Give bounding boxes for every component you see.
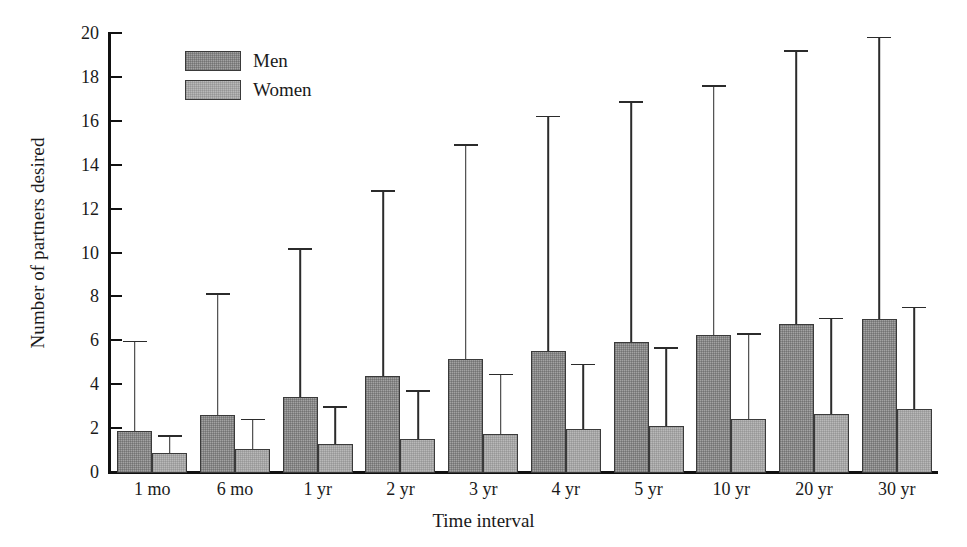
error-bar-line bbox=[382, 192, 384, 376]
x-tick-label: 30 yr bbox=[855, 479, 938, 500]
bar-women[interactable] bbox=[400, 439, 435, 473]
error-bar-cap bbox=[454, 144, 478, 146]
bar-slot bbox=[897, 32, 932, 473]
legend-label: Women bbox=[253, 79, 312, 101]
error-bar-cap bbox=[323, 406, 347, 408]
bar-women[interactable] bbox=[235, 449, 270, 473]
x-tick-label: 10 yr bbox=[690, 479, 773, 500]
error-bar-line bbox=[299, 250, 301, 397]
bar-men[interactable] bbox=[283, 397, 318, 473]
y-tick-label: 20 bbox=[53, 24, 108, 42]
bar-men[interactable] bbox=[365, 376, 400, 473]
error-bar-line bbox=[217, 295, 219, 415]
legend-label: Men bbox=[253, 50, 288, 72]
error-bar-line bbox=[878, 38, 880, 319]
bar-slot bbox=[152, 32, 187, 473]
x-tick-label: 3 yr bbox=[442, 479, 525, 500]
bar-women[interactable] bbox=[649, 426, 684, 473]
error-bar-cap bbox=[654, 347, 678, 349]
bar-women[interactable] bbox=[152, 453, 187, 473]
bar-slot bbox=[649, 32, 684, 473]
bar-group bbox=[525, 32, 608, 473]
error-bar-cap bbox=[571, 364, 595, 366]
bar-chart-figure: Number of partners desired 0246810121416… bbox=[0, 0, 967, 547]
x-tick-label: 1 mo bbox=[111, 479, 194, 500]
error-bar-line bbox=[913, 308, 915, 409]
error-bar-cap bbox=[619, 101, 643, 103]
error-bar-cap bbox=[288, 248, 312, 250]
bar-women[interactable] bbox=[566, 429, 601, 473]
bar-slot bbox=[365, 32, 400, 473]
error-bar-line bbox=[748, 335, 750, 420]
bar-women[interactable] bbox=[814, 414, 849, 473]
bar-slot bbox=[566, 32, 601, 473]
bar-slot bbox=[448, 32, 483, 473]
error-bar-line bbox=[252, 420, 254, 449]
bar-men[interactable] bbox=[448, 359, 483, 473]
x-tick-label: 1 yr bbox=[276, 479, 359, 500]
legend-swatch-women bbox=[185, 80, 241, 100]
error-bar-line bbox=[500, 375, 502, 433]
bar-slot bbox=[696, 32, 731, 473]
bar-group bbox=[690, 32, 773, 473]
bar-group bbox=[855, 32, 938, 473]
bar-women[interactable] bbox=[731, 419, 766, 473]
error-bar-line bbox=[665, 349, 667, 426]
error-bar-line bbox=[169, 437, 171, 453]
error-bar-cap bbox=[371, 190, 395, 192]
bar-men[interactable] bbox=[614, 342, 649, 473]
x-tick-label: 4 yr bbox=[525, 479, 608, 500]
bar-men[interactable] bbox=[200, 415, 235, 473]
legend-item-women[interactable]: Women bbox=[185, 79, 312, 101]
error-bar-cap bbox=[241, 419, 265, 421]
bar-group bbox=[359, 32, 442, 473]
bar-women[interactable] bbox=[483, 434, 518, 474]
error-bar-line bbox=[630, 103, 632, 342]
legend-item-men[interactable]: Men bbox=[185, 50, 312, 72]
error-bar-cap bbox=[819, 318, 843, 320]
bar-slot bbox=[117, 32, 152, 473]
error-bar-cap bbox=[536, 116, 560, 118]
bar-slot bbox=[531, 32, 566, 473]
error-bar-line bbox=[796, 52, 798, 324]
bar-slot bbox=[318, 32, 353, 473]
y-tick-label: 6 bbox=[53, 331, 108, 349]
bar-men[interactable] bbox=[862, 319, 897, 473]
bar-women[interactable] bbox=[897, 409, 932, 473]
error-bar-line bbox=[548, 117, 550, 351]
y-axis-title: Number of partners desired bbox=[27, 33, 49, 453]
x-tick-label: 6 mo bbox=[194, 479, 277, 500]
bar-men[interactable] bbox=[117, 431, 152, 473]
bar-group bbox=[111, 32, 194, 473]
y-tick-label: 14 bbox=[53, 156, 108, 174]
error-bar-cap bbox=[737, 333, 761, 335]
bar-group bbox=[607, 32, 690, 473]
bar-men[interactable] bbox=[531, 351, 566, 473]
x-axis-tick-labels: 1 mo6 mo1 yr2 yr3 yr4 yr5 yr10 yr20 yr30… bbox=[111, 479, 938, 500]
bar-group bbox=[773, 32, 856, 473]
legend: MenWomen bbox=[185, 50, 312, 108]
error-bar-cap bbox=[158, 435, 182, 437]
y-tick-label: 12 bbox=[53, 200, 108, 218]
bar-women[interactable] bbox=[318, 444, 353, 473]
error-bar-cap bbox=[406, 390, 430, 392]
y-tick-label: 0 bbox=[53, 463, 108, 481]
error-bar-cap bbox=[867, 37, 891, 39]
bar-slot bbox=[814, 32, 849, 473]
error-bar-cap bbox=[702, 85, 726, 87]
x-tick-label: 5 yr bbox=[607, 479, 690, 500]
bar-men[interactable] bbox=[779, 324, 814, 473]
error-bar-line bbox=[713, 87, 715, 335]
error-bar-cap bbox=[902, 307, 926, 309]
error-bar-line bbox=[465, 146, 467, 359]
bar-slot bbox=[483, 32, 518, 473]
x-axis-title: Time interval bbox=[0, 510, 967, 532]
bar-slot bbox=[862, 32, 897, 473]
y-tick-label: 16 bbox=[53, 112, 108, 130]
error-bar-cap bbox=[784, 50, 808, 52]
bar-slot bbox=[400, 32, 435, 473]
y-tick-label: 2 bbox=[53, 419, 108, 437]
bar-men[interactable] bbox=[696, 335, 731, 473]
error-bar-cap bbox=[206, 293, 230, 295]
error-bar-cap bbox=[123, 341, 147, 343]
